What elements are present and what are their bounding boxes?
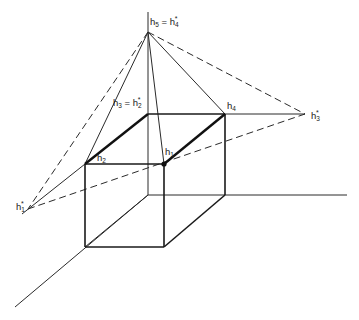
label-sub: 3 <box>118 102 122 109</box>
label-sup2: * <box>138 96 141 103</box>
label-h3star: h3* <box>311 111 319 121</box>
label-sub2: 2 <box>138 102 142 109</box>
label-sup: * <box>21 200 24 207</box>
label-sub: 5 <box>155 21 159 28</box>
cube-bottom-right-depth-edge <box>164 195 225 247</box>
label-sup: * <box>316 109 319 116</box>
label-sub: 3 <box>316 115 320 122</box>
label-h3-equals-h2star: h3 = h2* <box>113 98 140 108</box>
label-h1star: h1* <box>16 202 24 212</box>
label-sub: 2 <box>102 157 106 164</box>
cube-back-bottom-depth-edge <box>85 195 148 247</box>
label-h1: h1 <box>165 147 174 157</box>
label-sub: 4 <box>232 105 236 112</box>
label-sub: 1 <box>170 151 174 158</box>
label-sup2: * <box>175 15 178 22</box>
label-h4: h4 <box>227 101 236 111</box>
dashed-h5-h1star <box>28 32 148 209</box>
ray-h5-h4 <box>148 32 225 114</box>
perspective-cube-diagram <box>0 0 359 320</box>
label-eq: = <box>122 97 133 108</box>
h1-point-marker <box>161 161 166 166</box>
label-h2: h2 <box>97 153 106 163</box>
label-sub: 1 <box>21 206 25 213</box>
cube-top-left-depth-edge <box>85 114 148 164</box>
label-eq: = <box>159 16 170 27</box>
label-h5-equals-h4star: h5 = h4* <box>150 17 177 27</box>
ray-h5-h1 <box>148 32 164 164</box>
label-sub2: 4 <box>175 21 179 28</box>
